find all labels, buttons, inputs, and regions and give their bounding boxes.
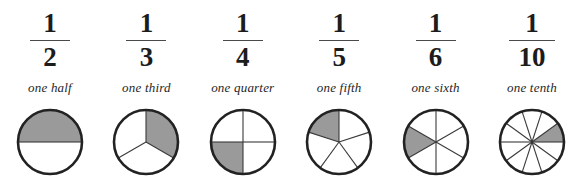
pie-diagram-1-5 [303, 106, 375, 178]
pie-svg [303, 106, 375, 178]
fraction-4: 14 [223, 10, 263, 71]
fraction-10: 110 [509, 10, 555, 71]
fraction-word-label: one quarter [211, 80, 274, 96]
fraction-2: 12 [30, 10, 70, 71]
numerator: 1 [236, 10, 250, 40]
shaded-sector [18, 110, 82, 142]
denominator: 5 [332, 41, 346, 72]
fraction-word-label: one tenth [507, 80, 557, 96]
fractions-figure: .. .. .. .. .. .. 12one half13one third1… [0, 0, 582, 193]
pie-svg [400, 106, 472, 178]
sector-divider-line [436, 142, 464, 158]
pie-svg [110, 106, 182, 178]
fraction-column-1-3: 13one third [102, 0, 190, 178]
fraction-word-label: one sixth [411, 80, 459, 96]
fraction-column-1-5: 15one fifth [295, 0, 383, 178]
fraction-column-1-10: 110one tenth [488, 0, 576, 178]
denominator: 10 [518, 41, 545, 72]
sector-divider-line [506, 123, 532, 142]
sector-divider-line [339, 142, 358, 168]
fraction-3: 13 [126, 10, 166, 71]
fraction-column-1-4: 14one quarter [199, 0, 287, 178]
numerator: 1 [140, 10, 154, 40]
sector-divider-line [522, 112, 532, 142]
sector-divider-line [436, 126, 464, 142]
numerator: 1 [43, 10, 57, 40]
denominator: 3 [140, 41, 154, 72]
sector-divider-line [320, 142, 339, 168]
sector-divider-line [506, 142, 532, 161]
fraction-word-label: one fifth [317, 80, 362, 96]
denominator: 2 [43, 41, 57, 72]
pie-svg [14, 106, 86, 178]
pie-diagram-1-3 [110, 106, 182, 178]
shaded-sector [404, 126, 436, 158]
sector-divider-line [522, 142, 532, 172]
denominator: 4 [236, 41, 250, 72]
fraction-column-1-2: 12one half [6, 0, 94, 178]
fraction-word-label: one half [28, 80, 72, 96]
fraction-6: 16 [416, 10, 456, 71]
sector-divider-line [532, 142, 558, 161]
numerator: 1 [429, 10, 443, 40]
pie-diagram-1-4 [207, 106, 279, 178]
pie-diagram-1-6 [400, 106, 472, 178]
denominator: 6 [429, 41, 443, 72]
pie-svg [496, 106, 568, 178]
sector-divider-line [119, 142, 147, 158]
fraction-5: 15 [319, 10, 359, 71]
pie-svg [207, 106, 279, 178]
sector-divider-line [532, 142, 542, 172]
fraction-word-label: one third [122, 80, 171, 96]
numerator: 1 [525, 10, 539, 40]
pie-diagram-1-2 [14, 106, 86, 178]
pie-diagram-1-10 [496, 106, 568, 178]
fraction-column-1-6: 16one sixth [392, 0, 480, 178]
numerator: 1 [332, 10, 346, 40]
sector-divider-line [339, 132, 369, 142]
fraction-columns: 12one half13one third14one quarter15one … [0, 0, 582, 193]
